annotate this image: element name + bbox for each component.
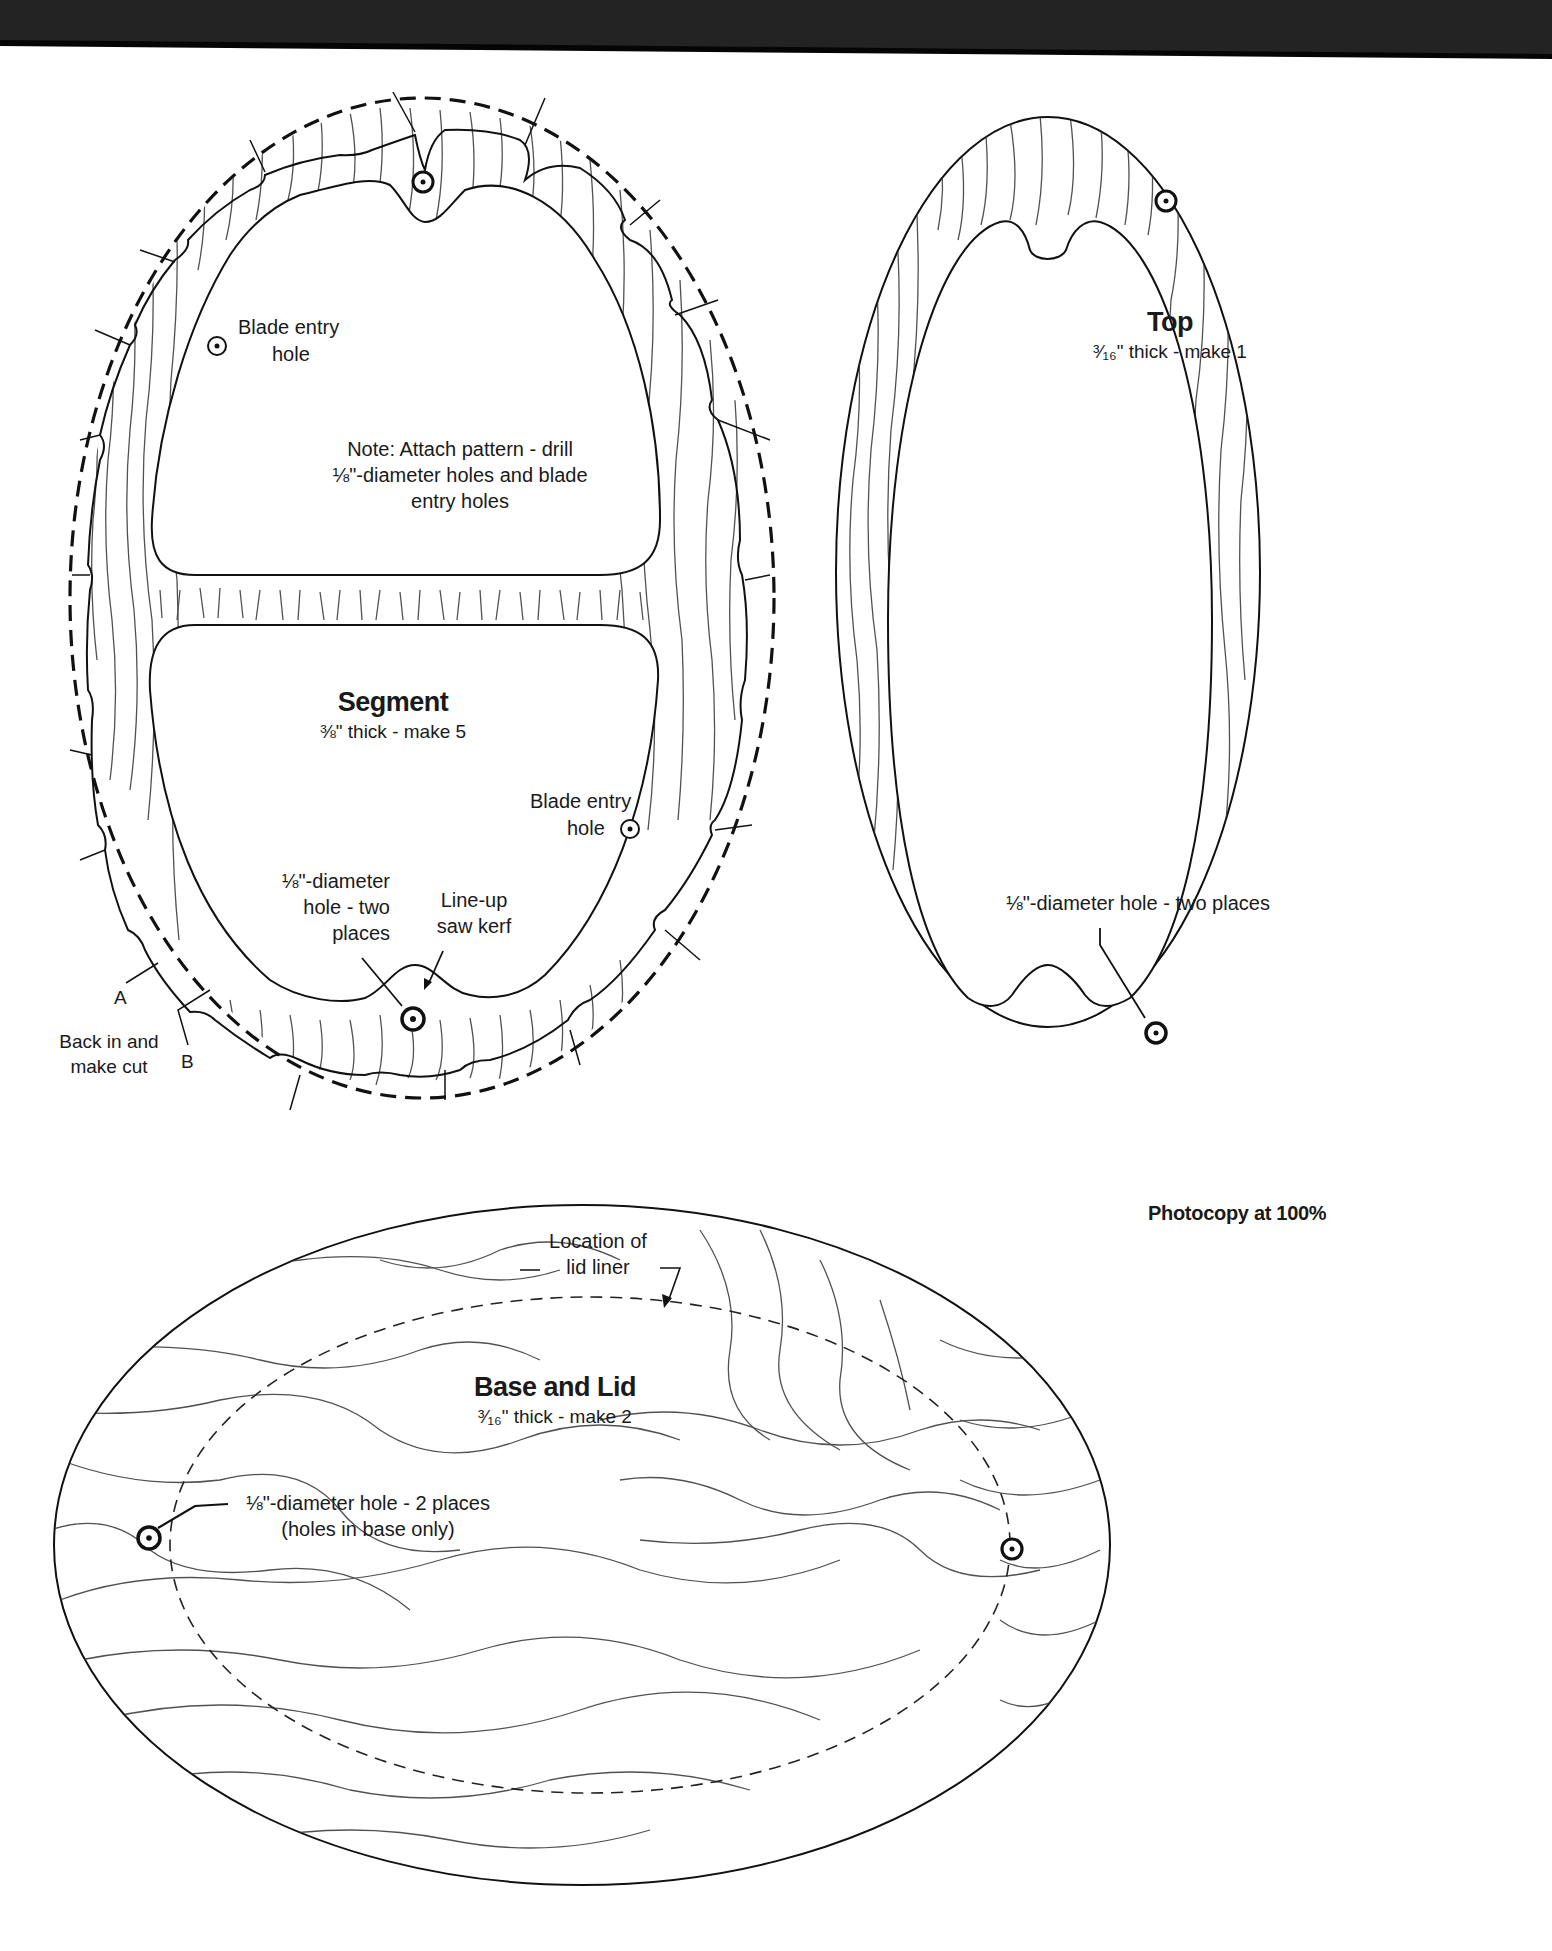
drill-hole-icon: [1002, 1539, 1022, 1559]
label-line: Line-up: [424, 887, 524, 913]
segment-note: Note: Attach pattern - drill ⅛"-diameter…: [320, 436, 600, 514]
label-line: ⅛"-diameter: [262, 868, 390, 894]
note-line: ⅛"-diameter holes and blade: [320, 462, 600, 488]
blade-entry-hole-icon: [621, 820, 639, 838]
base-lid-title: Base and Lid: [440, 1370, 670, 1405]
blade-entry-hole-icon: [208, 337, 226, 355]
segment-lineup-label: Line-up saw kerf: [424, 887, 524, 939]
label-line: hole - two: [262, 894, 390, 920]
back-in-label: Back in and make cut: [48, 1030, 170, 1079]
photocopy-note: Photocopy at 100%: [1148, 1200, 1326, 1226]
top-title-block: Top ³⁄₁₆" thick - make 1: [1070, 305, 1270, 365]
base-outer-edge: [54, 1205, 1110, 1885]
drill-hole-icon: [138, 1527, 160, 1549]
pattern-drawing: [0, 0, 1552, 1951]
label-line: hole: [567, 815, 605, 841]
segment-title: Segment: [313, 685, 473, 720]
label-line: make cut: [48, 1055, 170, 1080]
segment-spec: ⅜" thick - make 5: [313, 720, 473, 745]
segment-hole-label: ⅛"-diameter hole - two places: [262, 868, 390, 946]
base-lid-spec: ³⁄₁₆" thick - make 2: [440, 1405, 670, 1430]
segment-blade-entry-upper-label: Blade entry: [238, 314, 339, 340]
top-spec: ³⁄₁₆" thick - make 1: [1070, 340, 1270, 365]
segment-upper-opening: [152, 181, 660, 575]
base-hole-label: ⅛"-diameter hole - 2 places (holes in ba…: [228, 1490, 508, 1542]
label-line: Back in and: [48, 1030, 170, 1055]
label-line: saw kerf: [424, 913, 524, 939]
label-line: Location of: [548, 1228, 648, 1254]
base-lid-piece: [40, 1205, 1110, 1885]
label-line: Blade entry: [238, 314, 339, 340]
label-line: hole: [272, 341, 310, 367]
marker-b: B: [181, 1050, 194, 1075]
marker-a: A: [114, 986, 127, 1011]
top-title: Top: [1070, 305, 1270, 340]
top-piece: [836, 115, 1260, 1100]
segment-blade-entry-lower-label-2: hole: [567, 815, 605, 841]
drill-hole-icon: [402, 1008, 424, 1030]
marker-a-leader: [126, 963, 158, 983]
marker-b-leader: [178, 990, 210, 1045]
drill-hole-icon: [1146, 1023, 1166, 1043]
label-line: lid liner: [548, 1254, 648, 1280]
segment-title-block: Segment ⅜" thick - make 5: [313, 685, 473, 745]
note-line: entry holes: [320, 488, 600, 514]
label-line: ⅛"-diameter hole - 2 places: [228, 1490, 508, 1516]
label-line: Blade entry: [530, 788, 631, 814]
base-lid-title-block: Base and Lid ³⁄₁₆" thick - make 2: [440, 1370, 670, 1430]
note-line: Note: Attach pattern - drill: [320, 436, 600, 462]
segment-piece: [70, 92, 774, 1110]
drill-hole-icon: [413, 172, 433, 192]
segment-blade-entry-lower-label: Blade entry: [530, 788, 631, 814]
label-line: places: [262, 920, 390, 946]
drill-hole-icon: [1156, 191, 1176, 211]
label-line: (holes in base only): [228, 1516, 508, 1542]
lid-liner-label: Location of lid liner: [548, 1228, 648, 1280]
top-hole-label: ⅛"-diameter hole - two places: [1006, 890, 1270, 916]
segment-blade-entry-upper-label-2: hole: [272, 341, 310, 367]
